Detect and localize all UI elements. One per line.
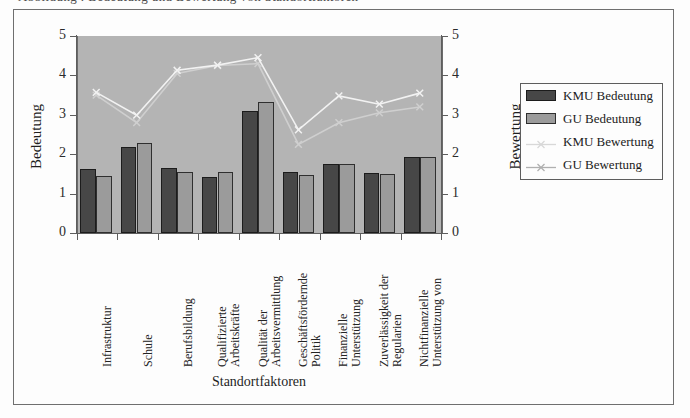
left-axis-title: Bedeutung [28,77,45,197]
right-axis-tick-label: 5 [452,27,474,43]
line-layer [78,36,442,233]
legend-label: GU Bewertung [563,157,642,173]
chart-page: Abbildung . Bedeutung und Bewertung von … [0,0,690,418]
left-axis-tick-label: 1 [44,185,66,201]
category-label: Schule [141,334,156,367]
x-axis-tick [158,234,159,240]
left-axis-tick-label: 0 [44,224,66,240]
left-axis-tick [70,115,76,116]
category-label: Berufsbildung [181,298,196,367]
legend-item: KMU Bewertung [521,130,662,153]
legend-line-icon [526,136,556,147]
category-label: Unterstützung [349,299,364,367]
legend-label: KMU Bedeutung [563,88,653,104]
legend-swatch-icon [526,90,556,101]
legend-swatch-icon [526,113,556,124]
cropped-caption-text: Abbildung . Bedeutung und Bewertung von … [18,0,359,5]
left-axis-tick-label: 4 [44,66,66,82]
x-axis-tick [239,234,240,240]
right-axis-tick-label: 3 [452,106,474,122]
x-axis-tick [360,234,361,240]
category-label: Arbeitsvermittlung [269,276,284,367]
legend-item: GU Bedeutung [521,107,662,130]
left-axis-tick [70,233,76,234]
right-axis-tick-label: 0 [452,224,474,240]
x-axis-tick [401,234,402,240]
left-axis-tick [70,75,76,76]
x-axis-tick [441,234,442,240]
right-axis-tick [442,233,448,234]
right-axis-tick [442,75,448,76]
category-label: Politik [309,335,324,367]
right-axis-tick-label: 4 [452,66,474,82]
legend-label: KMU Bewertung [563,134,654,150]
left-axis-tick [70,36,76,37]
line-marker-x-icon [295,141,302,148]
right-axis-tick [442,36,448,37]
right-axis-tick [442,194,448,195]
legend-item: GU Bewertung [521,153,662,176]
right-axis-tick-label: 2 [452,145,474,161]
left-axis-tick-label: 2 [44,145,66,161]
x-axis-tick [198,234,199,240]
chart-legend: KMU BedeutungGU BedeutungKMU BewertungGU… [520,83,663,180]
category-label: Arbeitskräfte [228,304,243,367]
category-label: Unterstützung von [430,278,445,367]
left-axis-tick [70,154,76,155]
left-axis-line [76,35,77,234]
right-axis-tick [442,115,448,116]
cropped-caption-line: Abbildung . Bedeutung und Bewertung von … [0,0,690,7]
x-axis-line [76,233,442,234]
category-label: Regularien [390,314,405,367]
left-axis-tick-label: 3 [44,106,66,122]
legend-line-icon [526,159,556,170]
left-axis-tick [70,194,76,195]
x-axis-tick [279,234,280,240]
line-marker-x-icon [133,119,140,126]
plot-area [77,36,443,233]
right-axis-tick-label: 1 [452,185,474,201]
left-axis-tick-label: 5 [44,27,66,43]
line-series-gu-bewertung [93,54,423,133]
legend-label: GU Bedeutung [563,111,641,127]
line-series-kmu-bewertung [93,60,423,148]
x-axis-tick [117,234,118,240]
x-axis-tick [320,234,321,240]
category-label: Infrastruktur [100,306,115,367]
right-axis-tick [442,154,448,155]
right-axis-line [441,35,442,234]
line-marker-x-icon [295,126,302,133]
legend-item: KMU Bedeutung [521,84,662,107]
x-axis-tick [77,234,78,240]
x-axis-title: Standortfaktoren [77,374,441,390]
line-marker-x-icon [133,112,140,119]
